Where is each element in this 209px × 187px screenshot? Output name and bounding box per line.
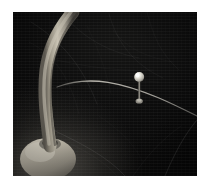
photo-margin-right: [197, 0, 209, 187]
photo-margin-left: [0, 0, 13, 187]
dark-background: [13, 12, 197, 176]
photograph: [13, 12, 197, 176]
photo-margin-bottom: [0, 176, 209, 187]
photo-margin-top: [0, 0, 209, 12]
screenshot-root: Dark photograph of a curved pale lamp st…: [0, 0, 209, 187]
